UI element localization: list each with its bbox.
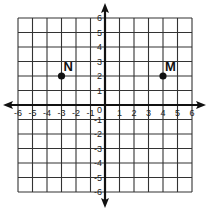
origin-label: 0 bbox=[97, 105, 102, 115]
y-tick-label: 6 bbox=[97, 13, 102, 23]
x-tick-label: -4 bbox=[43, 108, 51, 118]
x-tick-label: -5 bbox=[28, 108, 36, 118]
x-tick-label: 1 bbox=[117, 108, 122, 118]
x-tick-label: -6 bbox=[14, 108, 22, 118]
coordinate-plane: -6-5-4-3-2-1123456654321-1-2-3-4-5-60 NM bbox=[0, 0, 209, 215]
point-label-n: N bbox=[64, 59, 73, 74]
x-tick-label: 3 bbox=[146, 108, 151, 118]
y-tick-label: 2 bbox=[97, 71, 102, 81]
x-tick-label: 6 bbox=[189, 108, 194, 118]
y-tick-label: -6 bbox=[94, 187, 102, 197]
x-tick-label: 5 bbox=[175, 108, 180, 118]
x-tick-label: -2 bbox=[72, 108, 80, 118]
point-label-m: M bbox=[165, 59, 176, 74]
y-tick-label: 3 bbox=[97, 57, 102, 67]
y-tick-label: 5 bbox=[97, 28, 102, 38]
y-tick-label: -4 bbox=[94, 158, 102, 168]
y-tick-label: 1 bbox=[97, 86, 102, 96]
y-tick-label: -1 bbox=[94, 115, 102, 125]
y-tick-label: -3 bbox=[94, 144, 102, 154]
x-tick-label: -3 bbox=[57, 108, 65, 118]
y-tick-label: -5 bbox=[94, 173, 102, 183]
x-tick-label: 2 bbox=[131, 108, 136, 118]
y-tick-label: -2 bbox=[94, 129, 102, 139]
y-tick-label: 4 bbox=[97, 42, 102, 52]
x-tick-label: 4 bbox=[160, 108, 165, 118]
